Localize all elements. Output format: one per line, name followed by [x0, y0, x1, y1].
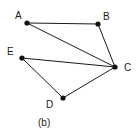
graph-edge-d-c: [63, 67, 115, 98]
graph-node-e: [19, 55, 24, 60]
graph-node-label-c: C: [124, 63, 131, 73]
graph-edge-b-c: [98, 24, 115, 67]
graph-node-c: [112, 64, 117, 69]
graph-node-label-a: A: [15, 11, 22, 21]
graph-node-b: [95, 21, 100, 26]
graph-node-label-e: E: [7, 47, 14, 57]
graph-node-d: [60, 95, 65, 100]
figure-container: ABCDE (b): [0, 0, 139, 139]
graph-edge-e-d: [22, 58, 63, 98]
edge-layer: [22, 23, 115, 98]
graph-edge-e-c: [22, 58, 115, 67]
graph-node-label-d: D: [46, 100, 53, 110]
graph-edge-a-c: [27, 23, 115, 67]
figure-caption: (b): [38, 118, 50, 128]
graph-node-label-b: B: [103, 12, 110, 22]
graph-node-a: [24, 20, 29, 25]
graph-edge-a-b: [27, 23, 98, 24]
